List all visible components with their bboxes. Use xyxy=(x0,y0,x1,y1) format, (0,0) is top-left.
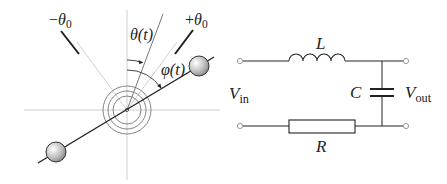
phi-t-label: φ(t) xyxy=(161,62,185,78)
terminal-in-bottom xyxy=(237,123,242,128)
pendulum-diagram xyxy=(24,10,220,180)
capacitor-label: C xyxy=(350,84,361,101)
plus-theta0-marker xyxy=(175,30,193,54)
terminal-in-top xyxy=(237,58,242,63)
phi-arc xyxy=(127,70,161,88)
theta-t-label: θ(t) xyxy=(130,27,153,43)
resistor-label: R xyxy=(316,138,326,155)
diagram-canvas: −θ0 +θ0 θ(t) φ(t) L C R Vin Vout xyxy=(0,0,447,184)
pendulum-ball-right xyxy=(189,56,209,76)
inductor-label: L xyxy=(316,35,325,52)
resistor xyxy=(289,120,355,133)
vin-label: Vin xyxy=(229,85,249,105)
minus-theta0-marker xyxy=(61,31,79,54)
plus-theta0-label: +θ0 xyxy=(185,12,208,31)
pendulum-ball-left xyxy=(46,142,66,162)
terminal-out-top xyxy=(403,58,408,63)
theta-symbol: θ xyxy=(194,11,202,28)
vout-label: Vout xyxy=(405,84,431,104)
subscript: 0 xyxy=(66,18,72,30)
subscript: out xyxy=(415,91,431,105)
inductor xyxy=(289,54,345,61)
minus-sign: − xyxy=(49,11,58,28)
plus-sign: + xyxy=(185,11,194,28)
subscript: in xyxy=(239,92,249,106)
circuit-diagram xyxy=(237,54,408,133)
v-symbol: V xyxy=(229,84,239,103)
terminal-out-bottom xyxy=(403,123,408,128)
theta-symbol: θ xyxy=(58,11,66,28)
subscript: 0 xyxy=(202,18,208,30)
minus-theta0-guide xyxy=(77,42,127,110)
minus-theta0-label: −θ0 xyxy=(49,12,72,31)
v-symbol: V xyxy=(405,83,415,102)
